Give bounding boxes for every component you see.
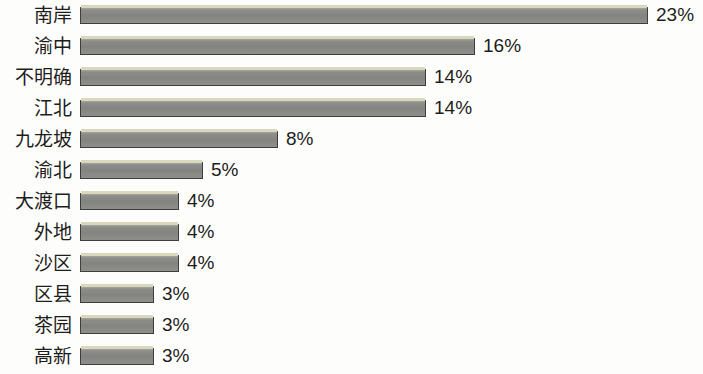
bar [80, 255, 179, 272]
bar-wrapper [80, 255, 179, 272]
bar [80, 100, 426, 117]
value-label: 23% [656, 4, 694, 26]
bar-row: 区县3% [0, 279, 703, 310]
bar-wrapper [80, 38, 475, 55]
bar-wrapper [80, 286, 154, 303]
bar-wrapper [80, 224, 179, 241]
bar-wrapper [80, 100, 426, 117]
category-label: 南岸 [0, 4, 72, 26]
bar [80, 131, 278, 148]
bar [80, 286, 154, 303]
bar-wrapper [80, 7, 648, 24]
bar [80, 193, 179, 210]
bar-wrapper [80, 193, 179, 210]
category-label: 沙区 [0, 252, 72, 274]
bar-row: 沙区4% [0, 248, 703, 279]
bar-row: 南岸23% [0, 0, 703, 31]
bar-row: 大渡口4% [0, 186, 703, 217]
value-label: 3% [162, 345, 189, 367]
value-label: 8% [286, 128, 313, 150]
category-label: 外地 [0, 221, 72, 243]
bar-row: 九龙坡8% [0, 124, 703, 155]
category-label: 高新 [0, 345, 72, 367]
value-label: 16% [483, 35, 521, 57]
bar-row: 高新3% [0, 341, 703, 372]
value-label: 4% [187, 221, 214, 243]
bar [80, 162, 203, 179]
bar-row: 渝北5% [0, 155, 703, 186]
bar-row: 江北14% [0, 93, 703, 124]
category-label: 茶园 [0, 314, 72, 336]
bar-row: 茶园3% [0, 310, 703, 341]
bar-wrapper [80, 317, 154, 334]
value-label: 14% [434, 66, 472, 88]
category-label: 九龙坡 [0, 128, 72, 150]
bar-wrapper [80, 162, 203, 179]
bar [80, 348, 154, 365]
category-label: 区县 [0, 283, 72, 305]
value-label: 4% [187, 252, 214, 274]
bar-row: 渝中16% [0, 31, 703, 62]
value-label: 3% [162, 283, 189, 305]
category-label: 不明确 [0, 66, 72, 88]
value-label: 14% [434, 97, 472, 119]
bar [80, 224, 179, 241]
category-label: 江北 [0, 97, 72, 119]
bar-row: 外地4% [0, 217, 703, 248]
bar-wrapper [80, 348, 154, 365]
bar [80, 7, 648, 24]
bar [80, 38, 475, 55]
bar-row: 不明确14% [0, 62, 703, 93]
bar-wrapper [80, 131, 278, 148]
bar [80, 317, 154, 334]
value-label: 3% [162, 314, 189, 336]
bar-chart: 南岸23%渝中16%不明确14%江北14%九龙坡8%渝北5%大渡口4%外地4%沙… [0, 0, 703, 374]
bar [80, 69, 426, 86]
bar-wrapper [80, 69, 426, 86]
category-label: 渝中 [0, 35, 72, 57]
category-label: 大渡口 [0, 190, 72, 212]
plot-area: 南岸23%渝中16%不明确14%江北14%九龙坡8%渝北5%大渡口4%外地4%沙… [0, 0, 703, 374]
value-label: 5% [211, 159, 238, 181]
value-label: 4% [187, 190, 214, 212]
category-label: 渝北 [0, 159, 72, 181]
